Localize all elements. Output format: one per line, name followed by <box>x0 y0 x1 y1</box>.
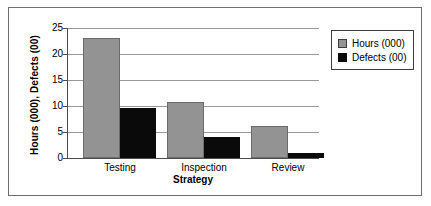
y-tick-20: 20 <box>41 49 63 59</box>
y-axis-tick-labels: 0 5 10 15 20 25 <box>39 28 63 158</box>
bar-review-hours <box>251 126 288 158</box>
plot-area: Testing Inspection Review <box>67 28 319 158</box>
bar-inspection-hours <box>167 102 204 158</box>
legend-item-defects: Defects (00) <box>338 50 406 64</box>
bar-group-testing: Testing <box>83 28 157 158</box>
y-tickmark-0 <box>63 158 67 159</box>
y-tick-15: 15 <box>41 75 63 85</box>
y-tickmark-10 <box>63 106 67 107</box>
legend-swatch-hours-icon <box>338 39 347 48</box>
y-tick-25: 25 <box>41 23 63 33</box>
y-tickmark-25 <box>63 28 67 29</box>
y-tick-10: 10 <box>41 101 63 111</box>
y-axis-title: Hours (000), Defects (00) <box>29 0 43 20</box>
y-tickmark-5 <box>63 132 67 133</box>
legend-item-hours: Hours (000) <box>338 36 406 50</box>
x-category-review: Review <box>238 162 338 173</box>
bar-review-defects <box>288 153 324 158</box>
y-axis-line <box>67 28 68 158</box>
chart-legend: Hours (000) Defects (00) <box>331 30 414 70</box>
chart-figure: Hours (000), Defects (00) 0 5 10 15 20 2… <box>8 7 422 196</box>
bar-group-review: Review <box>251 28 325 158</box>
legend-label-hours: Hours (000) <box>352 38 405 49</box>
y-tick-0: 0 <box>41 153 63 163</box>
bar-group-inspection: Inspection <box>167 28 241 158</box>
x-axis-line <box>67 158 319 159</box>
bar-inspection-defects <box>204 137 240 158</box>
bar-testing-hours <box>83 38 120 158</box>
x-axis-title: Strategy <box>67 174 319 185</box>
legend-swatch-defects-icon <box>338 53 347 62</box>
y-tickmark-15 <box>63 80 67 81</box>
bar-testing-defects <box>120 108 156 158</box>
y-tickmark-20 <box>63 54 67 55</box>
y-tick-5: 5 <box>41 127 63 137</box>
legend-label-defects: Defects (00) <box>352 52 406 63</box>
